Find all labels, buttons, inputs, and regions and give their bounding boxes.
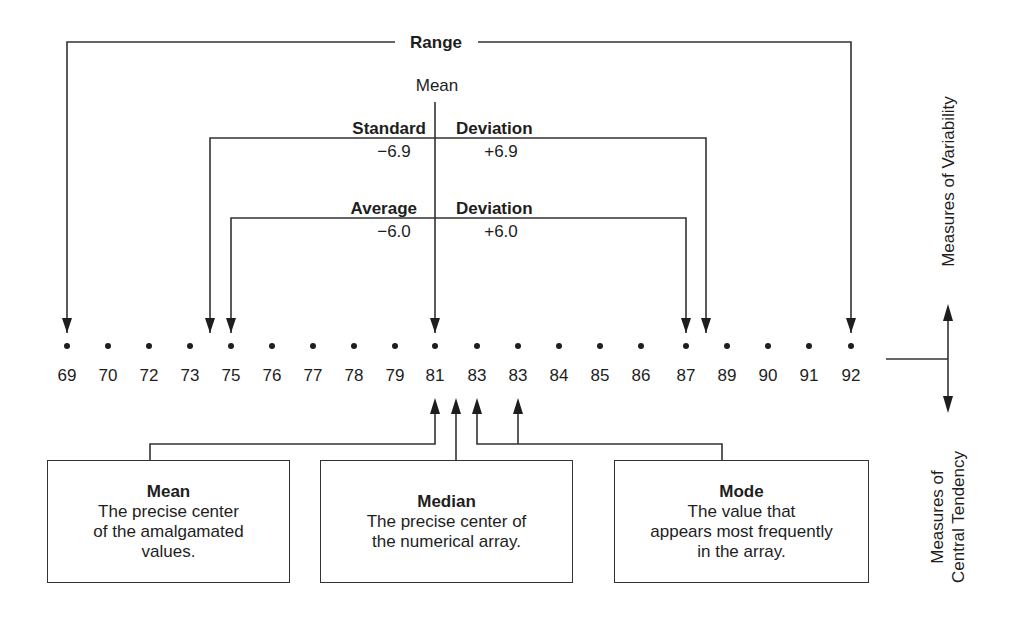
value-label: 92: [842, 367, 861, 384]
range-label: Range: [410, 34, 462, 51]
range-bracket: [67, 42, 851, 333]
arrow-down-icon: [205, 318, 215, 333]
value-label: 73: [181, 367, 200, 384]
standard-deviation-bracket: [210, 138, 706, 333]
mode-box-title: Mode: [719, 482, 763, 502]
mean-connector: [150, 402, 435, 460]
value-label: 72: [140, 367, 159, 384]
mode-box-description: The value that appears most frequently i…: [650, 502, 832, 562]
average-deviation-label-right: Deviation: [456, 200, 533, 217]
value-label: 87: [677, 367, 696, 384]
arrow-down-icon: [681, 318, 691, 333]
median-box: Median The precise center of the numeric…: [320, 460, 573, 583]
value-label: 86: [632, 367, 651, 384]
value-label: 84: [550, 367, 569, 384]
arrow-down-icon: [62, 318, 72, 333]
mean-box: Mean The precise center of the amalgamat…: [47, 460, 290, 583]
standard-deviation-label-right: Deviation: [456, 120, 533, 137]
average-deviation-minus: −6.0: [377, 223, 411, 240]
arrow-up-icon: [430, 398, 440, 414]
value-label: 76: [263, 367, 282, 384]
arrow-down-icon: [846, 318, 856, 333]
median-box-title: Median: [417, 492, 476, 512]
average-deviation-plus: +6.0: [484, 223, 518, 240]
value-label: 85: [591, 367, 610, 384]
average-deviation-bracket: [231, 218, 686, 333]
value-label: 83: [509, 367, 528, 384]
value-label: 81: [426, 367, 445, 384]
mean-box-description: The precise center of the amalgamated va…: [93, 502, 243, 562]
arrow-down-icon: [226, 318, 236, 333]
value-label: 70: [99, 367, 118, 384]
value-label: 69: [58, 367, 77, 384]
value-label: 79: [386, 367, 405, 384]
standard-deviation-minus: −6.9: [377, 143, 411, 160]
value-label: 83: [468, 367, 487, 384]
arrow-up-icon: [513, 398, 523, 414]
standard-deviation-label-left: Standard: [352, 120, 426, 137]
mode-connector: [477, 402, 722, 460]
median-box-description: The precise center of the numerical arra…: [367, 512, 527, 552]
value-label: 78: [345, 367, 364, 384]
mode-box: Mode The value that appears most frequen…: [614, 460, 869, 583]
measures-of-variability-label: Measures of Variability: [938, 82, 959, 282]
arrow-down-icon: [943, 396, 953, 413]
standard-deviation-plus: +6.9: [484, 143, 518, 160]
arrow-up-icon: [472, 398, 482, 414]
arrow-up-icon: [943, 304, 953, 321]
data-dots: [64, 343, 854, 349]
arrow-down-icon: [701, 318, 711, 333]
mean-box-title: Mean: [147, 482, 190, 502]
value-label: 91: [800, 367, 819, 384]
average-deviation-label-left: Average: [351, 200, 417, 217]
arrow-down-icon: [430, 318, 440, 333]
measures-of-central-tendency-label: Measures of Central Tendency: [927, 427, 969, 607]
arrow-up-icon: [451, 398, 461, 414]
mean-label: Mean: [416, 77, 459, 94]
value-label: 77: [304, 367, 323, 384]
value-label: 75: [222, 367, 241, 384]
value-label: 89: [718, 367, 737, 384]
arrowheads: [62, 304, 953, 414]
value-label: 90: [759, 367, 778, 384]
